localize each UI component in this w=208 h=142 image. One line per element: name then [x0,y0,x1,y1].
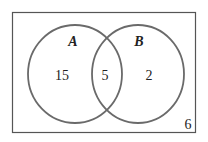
b-only-value: 2 [146,68,153,83]
a-only-value: 15 [55,68,69,83]
set-a-label: A [67,34,77,49]
set-b-label: B [133,34,143,49]
venn-diagram: A B 15 5 2 6 [0,0,208,142]
outside-value: 6 [185,117,192,132]
intersection-value: 5 [102,68,109,83]
